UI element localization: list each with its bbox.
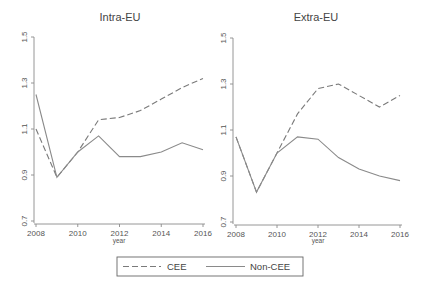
series-line-cee: [236, 84, 400, 192]
x-axis-label: year: [113, 237, 126, 245]
y-tick-label: 1.1: [219, 124, 228, 136]
x-tick-label: 2010: [69, 229, 87, 238]
y-axis: 0.70.91.11.31.5: [219, 32, 233, 228]
x-tick-label: 2014: [350, 230, 368, 239]
legend: CEE Non-CEE: [117, 257, 303, 276]
legend-label-non-cee: Non-CEE: [250, 261, 290, 272]
legend-label-cee: CEE: [167, 261, 187, 272]
panel-extra-eu: Extra-EU 0.70.91.11.31.5 200820102012201…: [219, 11, 409, 245]
x-axis: 20082010201220142016: [27, 224, 212, 238]
x-tick-label: 2014: [152, 229, 170, 238]
x-tick-label: 2008: [227, 230, 245, 239]
y-tick-label: 0.9: [219, 170, 228, 182]
x-tick-label: 2008: [27, 229, 45, 238]
y-tick-label: 1.1: [20, 123, 29, 135]
series-line-non-cee: [36, 95, 203, 178]
x-tick-label: 2010: [268, 230, 286, 239]
y-tick-label: 1.5: [20, 31, 29, 43]
panel-title: Intra-EU: [100, 11, 141, 23]
chart-figure: Intra-EU 0.70.91.11.31.5 200820102012201…: [0, 0, 425, 293]
y-tick-label: 1.5: [219, 32, 228, 44]
y-tick-label: 0.7: [219, 216, 228, 228]
panel-intra-eu: Intra-EU 0.70.91.11.31.5 200820102012201…: [20, 11, 212, 245]
y-tick-label: 0.9: [20, 169, 29, 181]
x-tick-label: 2016: [194, 229, 212, 238]
x-axis-label: year: [312, 237, 325, 245]
x-tick-label: 2016: [391, 230, 409, 239]
y-tick-label: 0.7: [20, 215, 29, 227]
panel-title: Extra-EU: [294, 11, 339, 23]
series-line-cee: [36, 78, 203, 177]
y-axis: 0.70.91.11.31.5: [20, 31, 34, 227]
series-lines: [236, 84, 400, 192]
y-tick-label: 1.3: [219, 78, 228, 90]
series-line-non-cee: [236, 137, 400, 192]
series-lines: [36, 78, 203, 177]
y-tick-label: 1.3: [20, 77, 29, 89]
